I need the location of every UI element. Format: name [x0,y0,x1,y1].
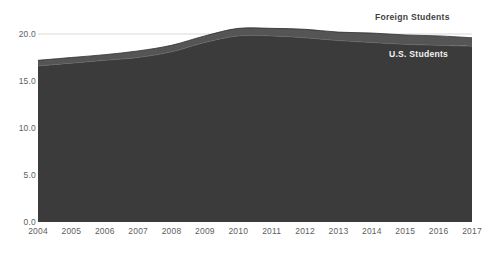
area-series-us-students [38,35,472,222]
x-axis-tick-label: 2013 [329,226,349,236]
chart-canvas [0,0,492,261]
x-axis-tick-label: 2017 [462,226,482,236]
series-label-foreign-students: Foreign Students [375,12,450,22]
x-axis-tick-label: 2016 [429,226,449,236]
x-axis-tick-label: 2007 [128,226,148,236]
y-axis-tick-label: 15.0 [2,76,36,86]
x-axis: 2004200520062007200820092010201120122013… [0,226,492,242]
area-chart: 0.05.010.015.020.0 200420052006200720082… [0,0,492,261]
x-axis-tick-label: 2005 [62,226,82,236]
x-axis-tick-label: 2006 [95,226,115,236]
y-axis: 0.05.010.015.020.0 [0,0,36,261]
series-label-us-students: U.S. Students [389,49,448,59]
x-axis-tick-label: 2004 [28,226,48,236]
x-axis-tick-label: 2010 [228,226,248,236]
y-axis-tick-label: 20.0 [2,29,36,39]
x-axis-tick-label: 2015 [395,226,415,236]
y-axis-tick-label: 5.0 [2,170,36,180]
x-axis-tick-label: 2014 [362,226,382,236]
x-axis-tick-label: 2011 [262,226,281,236]
x-axis-tick-label: 2008 [162,226,182,236]
x-axis-tick-label: 2009 [195,226,215,236]
x-axis-tick-label: 2012 [295,226,315,236]
y-axis-tick-label: 10.0 [2,123,36,133]
